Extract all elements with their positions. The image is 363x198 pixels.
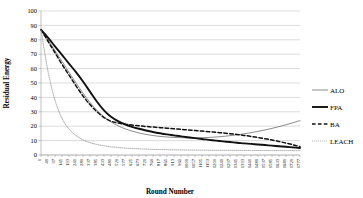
x-tick-label: 1633 bbox=[275, 158, 280, 168]
x-tick-label: 817 bbox=[156, 158, 161, 166]
y-tick-label: 60 bbox=[31, 65, 37, 72]
x-tick-label: 1009 bbox=[184, 158, 189, 168]
y-tick-label: 40 bbox=[31, 94, 37, 101]
x-tick-label: 1729 bbox=[289, 158, 294, 168]
x-tick-label: 1105 bbox=[198, 158, 203, 168]
y-tick-label: 80 bbox=[31, 36, 37, 43]
legend-label-fpa: FPA bbox=[330, 104, 342, 112]
x-tick-label: 913 bbox=[170, 158, 175, 166]
residual-energy-line-chart: 0102030405060708090100 14997145193241289… bbox=[0, 0, 363, 198]
x-tick-label: 529 bbox=[114, 158, 119, 166]
x-tick-label: 1201 bbox=[212, 158, 217, 168]
x-tick-label: 1057 bbox=[191, 158, 196, 168]
x-tick-label: 721 bbox=[142, 158, 147, 166]
x-axis-ticks: 1499714519324128933738543348152957762567… bbox=[37, 155, 301, 168]
x-tick-label: 625 bbox=[128, 158, 133, 166]
x-tick-label: 1153 bbox=[205, 158, 210, 168]
y-tick-label: 0 bbox=[34, 151, 37, 158]
x-tick-label: 433 bbox=[100, 158, 105, 166]
x-tick-label: 1249 bbox=[219, 158, 224, 168]
y-tick-label: 10 bbox=[31, 137, 37, 144]
x-axis-title: Round Number bbox=[146, 188, 195, 196]
x-tick-label: 337 bbox=[86, 158, 91, 166]
series-line-alo bbox=[41, 30, 300, 138]
legend-label-ba: BA bbox=[330, 121, 340, 129]
x-tick-label: 577 bbox=[121, 158, 126, 166]
data-series-group bbox=[41, 30, 300, 151]
x-tick-label: 1585 bbox=[268, 158, 273, 168]
y-tick-label: 20 bbox=[31, 122, 37, 129]
x-tick-label: 1681 bbox=[282, 158, 287, 168]
legend-label-leach: LEACH bbox=[330, 138, 353, 146]
x-tick-label: 289 bbox=[79, 158, 84, 166]
x-tick-label: 481 bbox=[107, 158, 112, 166]
y-tick-label: 70 bbox=[31, 50, 37, 57]
y-axis-ticks: 0102030405060708090100 bbox=[27, 7, 41, 158]
chart-container: 0102030405060708090100 14997145193241289… bbox=[0, 0, 363, 198]
x-tick-label: 1345 bbox=[233, 158, 238, 168]
x-tick-label: 97 bbox=[51, 158, 56, 163]
x-tick-label: 673 bbox=[135, 158, 140, 166]
plot-gridlines bbox=[41, 11, 300, 155]
y-tick-label: 30 bbox=[31, 108, 37, 115]
y-tick-label: 100 bbox=[27, 7, 37, 14]
x-tick-label: 1489 bbox=[254, 158, 259, 168]
x-tick-label: 1537 bbox=[261, 158, 266, 168]
x-tick-label: 865 bbox=[163, 158, 168, 166]
legend-label-alo: ALO bbox=[330, 87, 344, 95]
x-tick-label: 1393 bbox=[240, 158, 245, 168]
x-tick-label: 193 bbox=[65, 158, 70, 166]
x-tick-label: 1777 bbox=[296, 158, 301, 168]
x-tick-label: 385 bbox=[93, 158, 98, 166]
y-tick-label: 90 bbox=[31, 22, 37, 29]
chart-legend: ALOFPABALEACH bbox=[312, 87, 353, 146]
x-tick-label: 241 bbox=[72, 158, 77, 166]
x-tick-label: 1 bbox=[37, 158, 42, 161]
x-tick-label: 1441 bbox=[247, 158, 252, 168]
y-tick-label: 50 bbox=[31, 79, 37, 86]
x-tick-label: 769 bbox=[149, 158, 154, 166]
series-line-leach bbox=[41, 30, 300, 151]
x-tick-label: 145 bbox=[58, 158, 63, 166]
y-axis-title: Residual Energy bbox=[3, 57, 11, 108]
x-tick-label: 961 bbox=[177, 158, 182, 166]
x-tick-label: 49 bbox=[44, 158, 49, 163]
x-tick-label: 1297 bbox=[226, 158, 231, 168]
